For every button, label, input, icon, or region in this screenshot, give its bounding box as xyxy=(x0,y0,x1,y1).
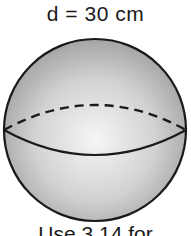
sphere-figure xyxy=(0,0,191,236)
diameter-label: d = 30 cm xyxy=(0,2,191,26)
sphere-body xyxy=(4,39,186,221)
pi-note-label: Use 3.14 for xyxy=(0,222,191,236)
